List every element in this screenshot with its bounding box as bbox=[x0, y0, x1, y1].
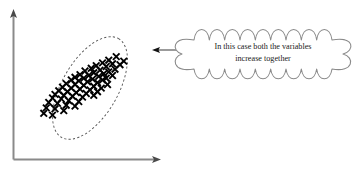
callout-cloud-group[interactable]: In this case both the variables increase… bbox=[175, 30, 351, 79]
diagram-canvas: In this case both the variables increase… bbox=[0, 0, 355, 175]
dashed-ellipse-boundary bbox=[37, 25, 142, 152]
scatter-plot-figure: In this case both the variables increase… bbox=[0, 0, 355, 175]
cluster-boundary-group bbox=[37, 25, 142, 152]
callout-text-line-2: increase together bbox=[235, 54, 291, 63]
scatter-marker bbox=[109, 72, 116, 79]
callout-text-line-1: In this case both the variables bbox=[214, 42, 311, 51]
scatter-marker bbox=[90, 92, 97, 99]
scatter-marker bbox=[113, 53, 120, 60]
scatter-marker bbox=[104, 81, 111, 88]
scatter-marker bbox=[72, 103, 79, 110]
